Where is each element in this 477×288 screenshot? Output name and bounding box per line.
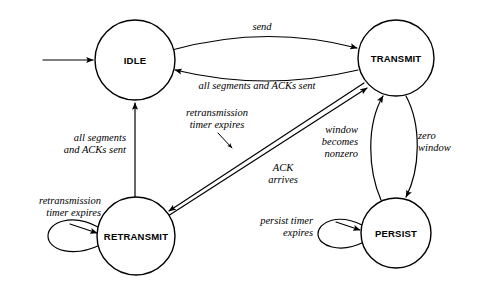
edge-label-becomes: becomes (322, 136, 358, 147)
state-diagram-canvas: send all segments and ACKs sent retransm… (0, 0, 477, 288)
state-label-transmit: TRANSMIT (371, 53, 422, 64)
transition-transmit-to-persist: zero window (406, 96, 451, 197)
edge-label-zero: zero (417, 130, 436, 141)
edge-label-all-segments-and-acks-sent: all segments and ACKs sent (198, 80, 316, 91)
transition-retransmit-self-loop: retransmission timer expires (39, 195, 101, 252)
edge-label-retransmission-timer-expires-2b: timer expires (46, 207, 101, 218)
edge-label-retransmission-timer-expires-1a: retransmission (186, 107, 248, 118)
transition-persist-self-loop: persist timer expires (259, 215, 364, 248)
edge-persist-transmit-curve (371, 96, 383, 200)
state-label-persist: PERSIST (375, 228, 417, 239)
edge-transmit-persist-curve (406, 96, 417, 197)
edge-label-retransmission-timer-expires-2a: retransmission (39, 195, 101, 206)
transition-idle-to-transmit: send (172, 21, 357, 50)
edge-idle-transmit-curve (172, 36, 357, 50)
edge-label-persist-expires: expires (283, 227, 313, 238)
edge-label-send: send (252, 21, 272, 32)
edge-label-window-2: window (418, 142, 451, 153)
edge-label-retransmission-timer-expires-1b: timer expires (190, 119, 245, 130)
edge-label-ack: ACK (272, 162, 294, 173)
edge-label-window: window (325, 124, 358, 135)
edge-persist-selfloop-arrow (336, 222, 360, 230)
edge-transmit-retransmit-line (169, 83, 364, 211)
edge-label-pointer-retransmission (218, 133, 232, 148)
edge-label-persist-timer: persist timer (259, 215, 314, 226)
edge-retransmit-selfloop-arrow (70, 224, 97, 233)
edge-label-arrives: arrives (268, 174, 298, 185)
edge-label-and-acks-sent: and ACKs sent (64, 144, 127, 155)
state-node-persist[interactable]: PERSIST (361, 198, 431, 268)
state-node-retransmit[interactable]: RETRANSMIT (97, 197, 175, 275)
transition-retransmit-to-idle: all segments and ACKs sent (64, 103, 135, 197)
state-node-idle[interactable]: IDLE (95, 20, 175, 100)
state-diagram: send all segments and ACKs sent retransm… (0, 0, 477, 288)
edge-label-all-segments: all segments (74, 132, 126, 143)
state-node-transmit[interactable]: TRANSMIT (358, 20, 434, 96)
state-label-idle: IDLE (124, 55, 146, 66)
transition-transmit-to-retransmit: retransmission timer expires (169, 83, 364, 211)
edge-label-nonzero: nonzero (325, 148, 358, 159)
state-label-retransmit: RETRANSMIT (104, 231, 168, 242)
transition-transmit-to-idle: all segments and ACKs sent (175, 70, 358, 91)
